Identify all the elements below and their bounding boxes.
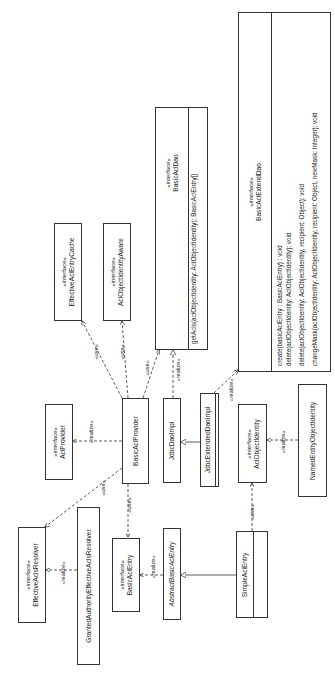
stereotype-label: «interface» xyxy=(164,154,172,191)
use-label: «use» xyxy=(100,480,106,495)
class-effective-acls-resolver[interactable]: «interface» EffectiveAclsResolver xyxy=(18,527,46,623)
class-name: GrantedAuthorityEffectiveAclsResolver xyxy=(85,529,92,643)
class-name: AclObjectIdentity xyxy=(253,419,260,468)
stereotype-label: «interface» xyxy=(60,238,68,307)
class-name: AclProvider xyxy=(59,425,66,459)
operation: create(basicAclEntry : BasicAclEntry) : … xyxy=(272,245,286,366)
class-abstract-basic-acl-entry[interactable]: AbstractBasicAclEntry xyxy=(163,528,181,620)
class-name: BasicAclEntry xyxy=(126,555,133,596)
class-name: JdbcExtendedDaoImpl xyxy=(204,407,211,473)
operation: changeMask(aclObjectIdentity: AclObjectI… xyxy=(311,112,318,366)
stereotype-label: «interface» xyxy=(51,425,59,459)
realize-label: «realize» xyxy=(88,421,94,444)
class-name: AbstractBasicAclEntry xyxy=(168,542,175,607)
class-named-entity-object-identity[interactable]: NamedEntityObjectIdentity xyxy=(298,384,327,497)
class-acl-provider[interactable]: «interface» AclProvider xyxy=(45,404,73,480)
class-name: SimpleAclEntry xyxy=(241,552,248,597)
use-link-cache xyxy=(82,321,122,398)
class-name: BasicAclProvider xyxy=(132,416,139,466)
realize-link-extenddao xyxy=(214,370,238,393)
class-acl-object-identity-aware[interactable]: «interface» AclObjectIdentityAware xyxy=(103,223,131,321)
realize-label: «realize» xyxy=(280,431,286,454)
use-label: «use» xyxy=(93,344,99,359)
stereotype-label: «interface» xyxy=(247,163,255,221)
stereotype-label: «interface» xyxy=(24,543,32,607)
class-simple-acl-entry[interactable]: SimpleAclEntry xyxy=(236,531,268,618)
class-name: EffectiveAclsResolver xyxy=(32,543,39,607)
operation: getAcls(aclObjectIdentity: AclObjectIden… xyxy=(190,174,197,344)
class-basic-acl-provider[interactable]: BasicAclProvider xyxy=(122,398,149,484)
operations-list: create(basicAclEntry : BasicAclEntry) : … xyxy=(272,245,286,366)
stereotype-label: «interface» xyxy=(245,419,253,468)
class-jdbc-extended-dao-impl[interactable]: JdbcExtendedDaoImpl xyxy=(200,393,219,487)
class-name: BasicAclExtendDao xyxy=(255,163,262,221)
stereotype-label: «interface» xyxy=(118,555,126,596)
realize-label: «realize» xyxy=(60,562,66,585)
operation: delete(aclObjectIdentity: AclObjectIdent… xyxy=(298,184,305,366)
class-effective-acl-entry-cache[interactable]: «interface» EffectiveAclEntryCache xyxy=(54,223,82,321)
class-name: NamedEntityObjectIdentity xyxy=(309,401,316,479)
realize-label: «realize» xyxy=(228,379,234,402)
use-label: «use» xyxy=(249,504,255,519)
class-name: EffectiveAclEntryCache xyxy=(68,238,75,307)
class-basic-acl-entry[interactable]: «interface» BasicAclEntry xyxy=(112,538,140,612)
class-granted-authority-effective-acls-resolver[interactable]: GrantedAuthorityEffectiveAclsResolver xyxy=(77,507,100,665)
class-basic-acl-dao[interactable]: «interface» BasicAclDao xyxy=(155,107,208,350)
class-name: BasicAclDao xyxy=(172,154,179,191)
class-name: AclObjectIdentityAware xyxy=(117,238,124,306)
realize-label: «realize» xyxy=(175,359,181,382)
class-name: JdbcDaoImpl xyxy=(168,421,175,459)
stereotype-label: «interface» xyxy=(109,238,117,306)
realize-label: «realize» xyxy=(150,556,156,579)
use-label: «use» xyxy=(119,344,125,359)
class-jdbc-dao-impl[interactable]: JdbcDaoImpl xyxy=(163,398,181,483)
operation: delete(aclObjectIdentity: AclObjectIdent… xyxy=(285,233,292,366)
use-label: «use» xyxy=(126,497,132,512)
use-label: «use» xyxy=(144,360,150,375)
class-acl-object-identity[interactable]: «interface» AclObjectIdentity xyxy=(238,404,267,483)
